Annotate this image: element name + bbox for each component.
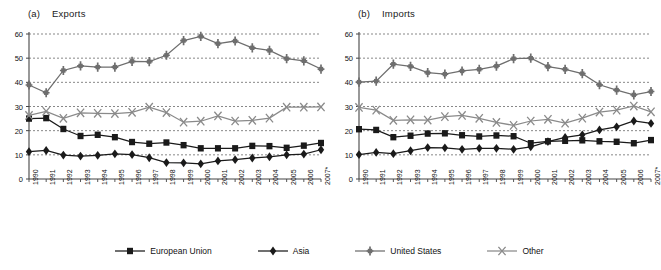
plot-area-exports: 0102030405060 19901991199219931994199519…: [0, 28, 329, 208]
x-tick-label: 1992: [66, 169, 73, 185]
legend-item-other[interactable]: Other: [487, 245, 543, 257]
x-tick-label: 1994: [431, 169, 438, 185]
series-other: [355, 102, 654, 130]
x-axis-labels-exports: 1990199119921993199419951996199719981999…: [0, 28, 329, 76]
x-axis-labels-imports: 1990199119921993199419951996199719981999…: [330, 28, 659, 76]
panel-title-imports: (b)Imports: [358, 8, 415, 19]
legend-label: European Union: [150, 246, 211, 256]
y-tick-label: 0: [19, 175, 23, 184]
series-asia: [26, 145, 324, 168]
diamond-marker-icon: [258, 245, 288, 257]
x-tick-label: 1993: [84, 169, 91, 185]
x-tick-label: 1999: [517, 169, 524, 185]
x-tick-label: 2003: [255, 169, 262, 185]
y-tick-label: 10: [15, 150, 23, 159]
x-tick-label: 1997: [152, 169, 159, 185]
x-tick-label: 1994: [101, 169, 108, 185]
panel-imports: (b)Imports 0102030405060 199019911992199…: [330, 0, 659, 235]
legend-item-asia[interactable]: Asia: [258, 245, 310, 257]
y-tick-label: 30: [345, 102, 353, 111]
series-european-union: [356, 126, 654, 146]
panel-title-exports: (a)Exports: [28, 8, 86, 19]
x-tick-label: 1990: [362, 169, 369, 185]
x-tick-label: 2000: [204, 169, 211, 185]
x-tick-label: 2001: [221, 169, 228, 185]
panel-tag-a: (a): [28, 8, 52, 19]
x-tick-label: 2003: [585, 169, 592, 185]
legend-item-european-union[interactable]: European Union: [115, 245, 211, 257]
x-tick-label: 2001: [551, 169, 558, 185]
panel-tag-b: (b): [358, 8, 382, 19]
x-tick-label: 2002: [568, 169, 575, 185]
x-tick-label: 2007*: [654, 167, 661, 185]
x-tick-label: 1998: [499, 169, 506, 185]
y-tick-label: 40: [15, 78, 23, 87]
panel-label-exports: Exports: [52, 8, 86, 19]
x-tick-label: 1995: [448, 169, 455, 185]
x-tick-label: 2002: [238, 169, 245, 185]
panel-exports: (a)Exports 0102030405060 199019911992199…: [0, 0, 329, 235]
x-tick-label: 2005: [290, 169, 297, 185]
legend-label: United States: [390, 246, 441, 256]
y-tick-label: 20: [345, 126, 353, 135]
x-tick-label: 1995: [118, 169, 125, 185]
legend-label: Asia: [293, 246, 310, 256]
square-marker-icon: [115, 245, 145, 257]
x-tick-label: 2005: [620, 169, 627, 185]
chart-legend: European UnionAsiaUnited StatesOther: [0, 240, 659, 262]
legend-label: Other: [522, 246, 543, 256]
y-tick-label: 10: [345, 150, 353, 159]
series-asia: [356, 117, 654, 159]
x-tick-label: 2006: [307, 169, 314, 185]
y-tick-label: 30: [15, 102, 23, 111]
x-tick-label: 1991: [379, 169, 386, 185]
x-tick-label: 1999: [187, 169, 194, 185]
y-tick-label: 40: [345, 78, 353, 87]
series-european-union: [26, 115, 324, 152]
legend-item-united-states[interactable]: United States: [355, 245, 441, 257]
x-tick-label: 1990: [32, 169, 39, 185]
plot-area-imports: 0102030405060 19901991199219931994199519…: [330, 28, 659, 208]
x-tick-label: 1998: [169, 169, 176, 185]
x-marker-icon: [487, 245, 517, 257]
x-tick-label: 2000: [534, 169, 541, 185]
y-tick-label: 20: [15, 126, 23, 135]
x-tick-label: 1993: [414, 169, 421, 185]
x-tick-label: 2004: [272, 169, 279, 185]
x-tick-label: 2004: [602, 169, 609, 185]
x-tick-label: 1996: [465, 169, 472, 185]
plus-marker-icon: [355, 245, 385, 257]
y-tick-label: 0: [349, 175, 353, 184]
x-tick-label: 1991: [49, 169, 56, 185]
panel-label-imports: Imports: [382, 8, 415, 19]
x-tick-label: 2006: [637, 169, 644, 185]
x-tick-label: 1992: [396, 169, 403, 185]
x-tick-label: 1996: [135, 169, 142, 185]
x-tick-label: 1997: [482, 169, 489, 185]
